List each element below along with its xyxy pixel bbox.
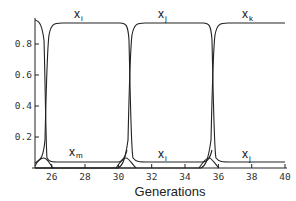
label-x-i-bottom: xi bbox=[158, 147, 167, 163]
y-tick-label: 0.8 bbox=[15, 38, 32, 49]
series-bump-1 bbox=[35, 158, 53, 168]
label-x-i-top: xi bbox=[74, 7, 83, 23]
label-x-k-top: xk bbox=[242, 7, 254, 23]
series-bump-3 bbox=[199, 158, 219, 168]
x-tick-label: 34 bbox=[179, 171, 191, 182]
x-tick-label: 40 bbox=[279, 171, 291, 182]
x-tick-label: 36 bbox=[213, 171, 225, 182]
label-x-j-bottom: xj bbox=[242, 147, 251, 163]
label-x-j-top: xj bbox=[158, 7, 167, 23]
y-tick-label: 0.6 bbox=[15, 69, 32, 80]
x-tick-label: 28 bbox=[79, 171, 91, 182]
x-tick-label: 38 bbox=[246, 171, 258, 182]
y-tick-label: 0.4 bbox=[15, 100, 32, 111]
label-x-m: xm bbox=[69, 145, 83, 160]
x-tick-label: 32 bbox=[146, 171, 157, 182]
y-tick-label: 0.2 bbox=[15, 131, 32, 142]
x-ticks: 26 28 30 32 34 36 38 40 bbox=[46, 164, 291, 182]
chart: 0.2 0.4 0.6 0.8 26 28 30 32 34 36 38 40 … bbox=[0, 0, 296, 201]
x-axis-title: Generations bbox=[135, 184, 206, 199]
x-tick-label: 30 bbox=[113, 171, 125, 182]
series-bump-2 bbox=[116, 158, 136, 168]
x-tick-label: 26 bbox=[46, 171, 58, 182]
series-x-i bbox=[35, 23, 212, 163]
curve-labels: xi xj xk xm xi xj bbox=[69, 7, 254, 163]
